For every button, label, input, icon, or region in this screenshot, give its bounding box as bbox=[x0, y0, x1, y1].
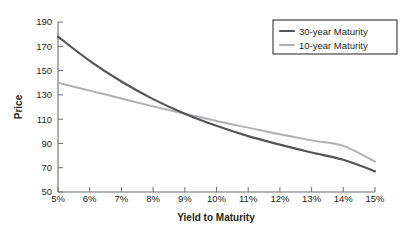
y-tick-label: 190 bbox=[36, 16, 52, 27]
x-tick-label: 11% bbox=[239, 193, 258, 204]
x-tick-label: 13% bbox=[302, 193, 322, 204]
price-yield-line-chart: 507090110130150170190 5%6%7%8%9%10%11%12… bbox=[0, 0, 411, 251]
legend-label: 10-year Maturity bbox=[299, 40, 368, 51]
y-tick-label: 90 bbox=[41, 138, 52, 149]
y-tick-label: 150 bbox=[36, 65, 52, 76]
y-tick-label: 110 bbox=[37, 114, 52, 125]
x-axis-title: Yield to Maturity bbox=[177, 212, 255, 223]
y-tick-label: 130 bbox=[36, 89, 52, 100]
y-tick-label: 170 bbox=[36, 41, 52, 52]
x-tick-label: 10% bbox=[207, 193, 227, 204]
x-tick-label: 15% bbox=[365, 193, 385, 204]
chart-container: 507090110130150170190 5%6%7%8%9%10%11%12… bbox=[0, 0, 411, 251]
x-tick-label: 7% bbox=[115, 193, 129, 204]
x-tick-label: 12% bbox=[270, 193, 290, 204]
x-tick-label: 14% bbox=[334, 193, 354, 204]
y-tick-label: 70 bbox=[41, 162, 52, 173]
legend-label: 30-year Maturity bbox=[299, 26, 368, 37]
x-tick-label: 6% bbox=[83, 193, 97, 204]
x-tick-label: 9% bbox=[178, 193, 192, 204]
x-tick-label: 5% bbox=[51, 193, 65, 204]
y-axis-title: Price bbox=[13, 94, 24, 119]
chart-legend: 30-year Maturity10-year Maturity bbox=[273, 20, 397, 54]
x-tick-label: 8% bbox=[146, 193, 160, 204]
